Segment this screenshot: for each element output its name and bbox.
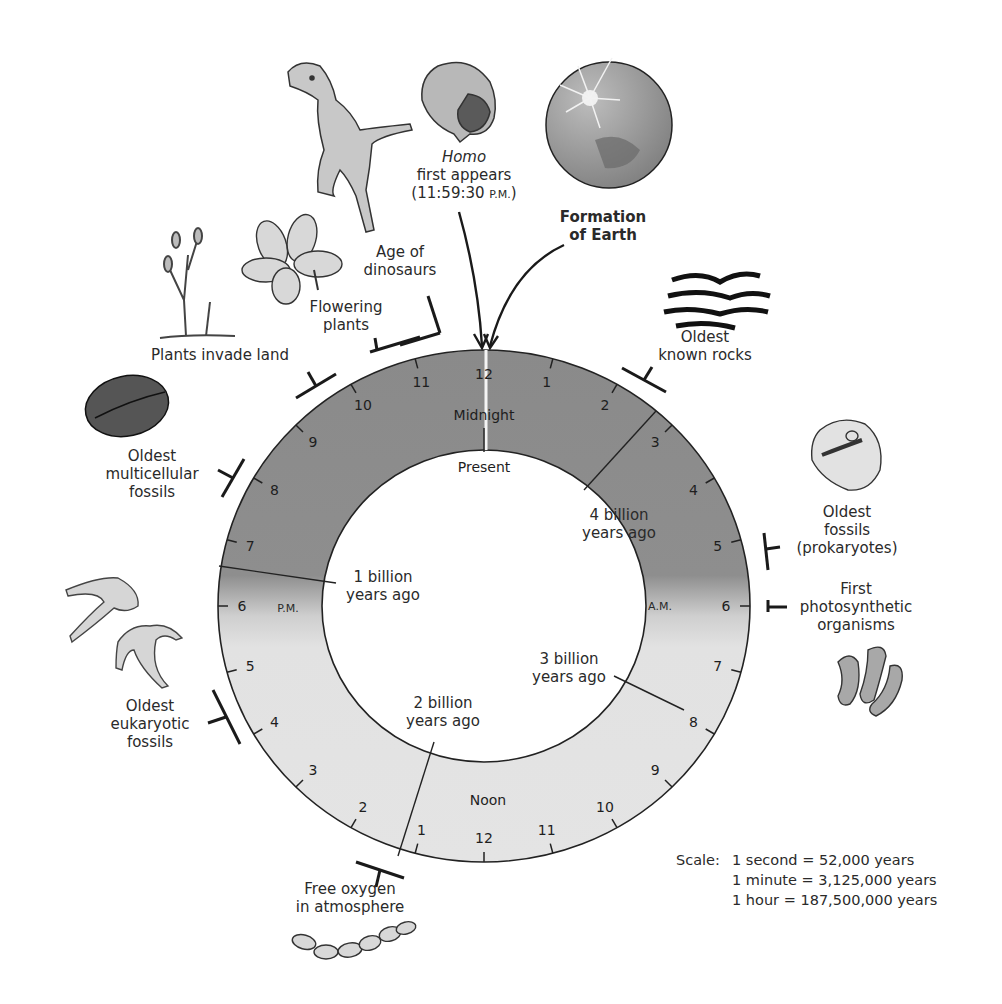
- label-free-oxygen: Free oxygen in atmosphere: [290, 880, 410, 916]
- pm-label: P.M.: [277, 602, 298, 615]
- cyanobacteria-icon: [838, 647, 902, 716]
- multicellular-fossil-icon: [80, 368, 175, 444]
- midnight-label: Midnight: [454, 407, 515, 423]
- time-scale-legend: Scale: 1 second = 52,000 years 1 minute …: [676, 850, 937, 910]
- bracket-flowering: [370, 337, 420, 352]
- hour-label: 7: [713, 658, 722, 674]
- bracket-dinosaurs: [400, 296, 440, 345]
- label-oldest-rocks: Oldest known rocks: [650, 328, 760, 364]
- hour-label: 1: [417, 822, 426, 838]
- hour-label: 10: [596, 799, 614, 815]
- prokaryote-fossil-icon: [812, 420, 881, 490]
- clock-ring: 121234567891011121234567891011 Midnight …: [218, 350, 750, 862]
- hour-label: 9: [651, 762, 660, 778]
- bracket-oldest-rocks: [622, 367, 666, 392]
- hour-label: 5: [246, 658, 255, 674]
- label-oldest-multicellular: Oldest multicellular fossils: [92, 447, 212, 501]
- scale-row: 1 minute = 3,125,000 years: [676, 870, 937, 890]
- bracket-multicellular: [218, 459, 244, 497]
- label-first-photosynthetic: First photosynthetic organisms: [796, 580, 916, 634]
- hour-label: 3: [651, 434, 660, 450]
- hour-label: 6: [238, 598, 247, 614]
- label-oldest-eukaryotic: Oldest eukaryotic fossils: [100, 697, 200, 751]
- hour-label: 5: [713, 538, 722, 554]
- earth-icon: [546, 58, 672, 188]
- hour-label: 12: [475, 366, 493, 382]
- label-3-billion: 3 billion years ago: [504, 650, 634, 686]
- label-oldest-fossils: Oldest fossils (prokaryotes): [792, 503, 902, 557]
- present-label: Present: [458, 459, 511, 475]
- label-homo: Homo first appears (11:59:30 P.M.): [404, 148, 524, 204]
- hour-label: 2: [601, 397, 610, 413]
- label-age-dinosaurs: Age of dinosaurs: [350, 243, 450, 279]
- hour-label: 6: [722, 598, 731, 614]
- flower-icon: [242, 211, 342, 304]
- hour-label: 1: [542, 374, 551, 390]
- rocks-icon: [664, 274, 770, 328]
- hour-label: 9: [308, 434, 317, 450]
- early-plant-icon: [160, 228, 235, 338]
- hour-label: 10: [354, 397, 372, 413]
- bracket-photosynthetic: [768, 600, 787, 612]
- bracket-plants-land: [296, 372, 336, 398]
- homo-time: (11:59:30: [411, 184, 489, 202]
- scale-row: Scale: 1 second = 52,000 years: [676, 850, 937, 870]
- label-plants-land: Plants invade land: [150, 346, 290, 364]
- label-formation-earth: Formation of Earth: [548, 208, 658, 244]
- hour-label: 3: [308, 762, 317, 778]
- hour-label: 7: [246, 538, 255, 554]
- hour-label: 12: [475, 830, 493, 846]
- human-head-icon: [422, 62, 496, 142]
- label-flowering-plants: Flowering plants: [296, 298, 396, 334]
- hour-label: 4: [270, 714, 279, 730]
- geologic-clock-diagram: 121234567891011121234567891011 Midnight …: [0, 0, 1002, 1004]
- noon-label: Noon: [470, 792, 506, 808]
- hour-label: 8: [270, 482, 279, 498]
- label-1-billion: 1 billion years ago: [318, 568, 448, 604]
- homo-arrow: [459, 212, 482, 346]
- dinosaur-icon: [288, 63, 412, 232]
- scale-row: 1 hour = 187,500,000 years: [676, 890, 937, 910]
- hour-label: 4: [689, 482, 698, 498]
- label-4-billion: 4 billion years ago: [554, 506, 684, 542]
- hour-label: 8: [689, 714, 698, 730]
- eukaryote-fossil-icon: [66, 578, 182, 688]
- am-label: A.M.: [648, 600, 672, 613]
- earth-arrow: [490, 245, 564, 346]
- hour-label: 11: [412, 374, 430, 390]
- hour-label: 11: [538, 822, 556, 838]
- bracket-oldest-fossils: [764, 533, 780, 570]
- oxygen-chain-icon: [291, 920, 418, 959]
- label-2-billion: 2 billion years ago: [378, 694, 508, 730]
- hour-label: 2: [359, 799, 368, 815]
